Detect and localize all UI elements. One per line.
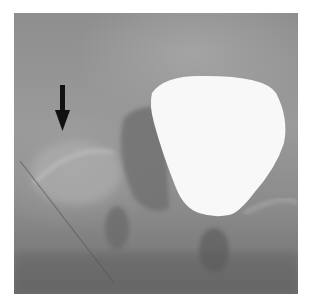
- xray-image: [14, 13, 298, 294]
- arrow-annotation-icon: [55, 85, 70, 131]
- bladder-contrast: [151, 76, 286, 216]
- xray-anatomy: [14, 13, 298, 294]
